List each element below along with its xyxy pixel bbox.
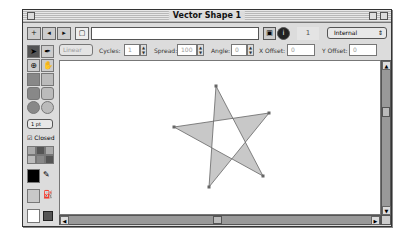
paint-bucket-icon: ⛽ bbox=[43, 190, 53, 199]
fill-gradient-tool[interactable] bbox=[45, 155, 54, 164]
x-offset-label: X Offset: bbox=[259, 47, 285, 54]
fill-none-tool[interactable] bbox=[27, 155, 36, 164]
angle-label: Angle: bbox=[211, 47, 230, 54]
checkbox-icon: ☑ bbox=[27, 134, 32, 141]
registration-tool[interactable]: ⊕ bbox=[27, 59, 40, 72]
cycles-stepper[interactable]: ▲▼ bbox=[140, 44, 147, 56]
drawing-canvas[interactable] bbox=[59, 60, 381, 215]
arrow-icon: ➤ bbox=[30, 47, 37, 56]
horizontal-scrollbar[interactable]: ◀ ▶ bbox=[59, 215, 381, 225]
closed-label: Closed bbox=[34, 134, 54, 141]
vertical-scroll-thumb[interactable] bbox=[382, 107, 390, 117]
stroke-pen-icon: ✎ bbox=[43, 170, 50, 179]
rect-tool[interactable] bbox=[41, 73, 54, 86]
vertex-handle[interactable] bbox=[268, 112, 271, 115]
storage-select[interactable]: Internal ⇕ bbox=[327, 27, 387, 39]
top-toolbar: + ◂ ▸ ▢ ▣ i 1 Internal ⇕ bbox=[27, 27, 387, 41]
fill-solid-tool[interactable] bbox=[36, 155, 45, 164]
updown-arrows-icon: ⇕ bbox=[378, 28, 383, 38]
roundrect-tool[interactable] bbox=[41, 87, 54, 100]
stroke-color-chip[interactable] bbox=[27, 169, 40, 183]
background-color-chip[interactable] bbox=[27, 209, 40, 223]
hand-tool[interactable]: ✋ bbox=[41, 59, 54, 72]
angle-stepper[interactable]: ▲▼ bbox=[247, 44, 254, 56]
spread-input[interactable]: 100 bbox=[177, 44, 197, 56]
vertex-handle[interactable] bbox=[215, 85, 218, 88]
cast-member-name-input[interactable] bbox=[91, 27, 259, 40]
previous-button[interactable]: ◂ bbox=[42, 27, 56, 40]
add-button[interactable]: + bbox=[27, 27, 41, 40]
crosshair-icon: ⊕ bbox=[30, 61, 37, 70]
gradient-right-tool[interactable] bbox=[45, 146, 54, 155]
pen-icon: ✒ bbox=[44, 47, 51, 56]
background-icon bbox=[43, 211, 53, 221]
spread-label: Spread: bbox=[154, 47, 177, 54]
tool-palette: ➤ ✒ ⊕ ✋ 1 pt ☑ Closed ✎ ⛽ bbox=[27, 45, 55, 225]
close-box[interactable] bbox=[27, 12, 35, 20]
scroll-down-arrow[interactable]: ▼ bbox=[382, 206, 391, 215]
horizontal-scroll-thumb[interactable] bbox=[213, 216, 222, 224]
vertex-handle[interactable] bbox=[173, 126, 176, 129]
storage-select-value: Internal bbox=[334, 29, 357, 36]
next-button[interactable]: ▸ bbox=[57, 27, 71, 40]
pen-tool[interactable]: ✒ bbox=[41, 45, 54, 58]
scroll-left-arrow[interactable]: ◀ bbox=[60, 216, 69, 225]
cycles-input[interactable]: 1 bbox=[124, 44, 140, 56]
y-offset-label: Y Offset: bbox=[322, 47, 348, 54]
collapse-box[interactable] bbox=[380, 12, 388, 20]
fill-color-chip[interactable] bbox=[27, 189, 40, 203]
angle-input[interactable]: 0 bbox=[231, 44, 247, 56]
line-width-value: 1 pt bbox=[31, 121, 41, 127]
x-offset-input[interactable]: 0 bbox=[287, 44, 315, 56]
gradient-mid-tool[interactable] bbox=[36, 146, 45, 155]
zoom-box[interactable] bbox=[369, 12, 377, 20]
closed-checkbox[interactable]: ☑ Closed bbox=[27, 134, 54, 141]
ellipse-tool[interactable] bbox=[41, 101, 54, 114]
gradient-options-bar: Linear Cycles: 1 ▲▼ Spread: 100 ▲▼ Angle… bbox=[59, 44, 387, 58]
gradient-left-tool[interactable] bbox=[27, 146, 36, 155]
title-bar[interactable]: Vector Shape 1 bbox=[23, 10, 391, 23]
resize-grip[interactable] bbox=[381, 215, 391, 225]
spread-stepper[interactable]: ▲▼ bbox=[197, 44, 204, 56]
filled-rect-tool[interactable] bbox=[27, 73, 40, 86]
scroll-up-arrow[interactable]: ▲ bbox=[382, 61, 391, 70]
vector-shape-window: Vector Shape 1 + ◂ ▸ ▢ ▣ i 1 Internal ⇕ … bbox=[22, 9, 392, 227]
gradient-type-select[interactable]: Linear bbox=[59, 44, 93, 56]
info-button[interactable]: i bbox=[277, 27, 290, 40]
cast-member-thumbnail[interactable]: ▢ bbox=[75, 27, 89, 40]
vertex-handle[interactable] bbox=[208, 186, 211, 189]
vertex-handle[interactable] bbox=[262, 175, 265, 178]
hand-icon: ✋ bbox=[43, 61, 53, 70]
shape-icon: ▢ bbox=[79, 29, 86, 37]
window-title: Vector Shape 1 bbox=[169, 11, 245, 20]
arrow-tool[interactable]: ➤ bbox=[27, 45, 40, 58]
star-shape[interactable] bbox=[60, 61, 382, 216]
vertical-scrollbar[interactable]: ▲ ▼ bbox=[381, 60, 391, 216]
cast-member-number: 1 bbox=[297, 27, 319, 40]
scroll-right-arrow[interactable]: ▶ bbox=[371, 216, 380, 225]
filled-roundrect-tool[interactable] bbox=[27, 87, 40, 100]
script-button[interactable]: ▣ bbox=[263, 27, 276, 40]
y-offset-input[interactable]: 0 bbox=[349, 44, 377, 56]
cycles-label: Cycles: bbox=[99, 47, 121, 54]
filled-ellipse-tool[interactable] bbox=[27, 101, 40, 114]
line-width-select[interactable]: 1 pt bbox=[27, 119, 53, 129]
